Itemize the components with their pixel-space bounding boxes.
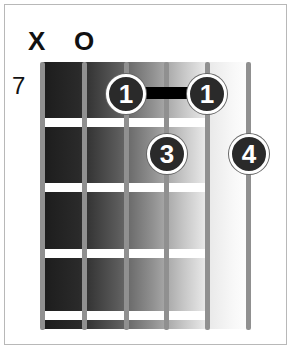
finger-dot: 1 — [106, 74, 146, 114]
string-1 — [40, 62, 45, 330]
muted-string-marker: X — [28, 28, 45, 54]
finger-dot: 4 — [229, 134, 269, 174]
string-4 — [164, 62, 169, 330]
string-2 — [82, 62, 87, 330]
open-string-marker: O — [74, 28, 94, 54]
finger-dot: 3 — [147, 134, 187, 174]
starting-fret-number: 7 — [12, 72, 25, 100]
finger-dot: 1 — [187, 74, 227, 114]
string-6 — [246, 62, 251, 330]
